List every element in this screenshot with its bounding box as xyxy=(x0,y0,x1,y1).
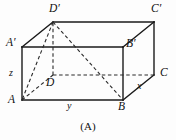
edge-label-x: x xyxy=(137,81,141,91)
vertex-label-D-prime: D′ xyxy=(49,3,60,15)
vertex-label-A: A xyxy=(8,94,15,106)
figure-caption: (A) xyxy=(0,120,176,132)
vertex-label-C: C xyxy=(160,67,168,79)
edge-label-y: y xyxy=(67,101,71,111)
vertex-label-A-prime: A′ xyxy=(6,37,16,49)
geometry-diagram-svg xyxy=(0,0,176,140)
solid-edges xyxy=(22,22,154,100)
vertex-label-B: B xyxy=(118,101,125,113)
edge-label-z: z xyxy=(9,68,13,78)
vertex-label-D: D xyxy=(46,77,54,89)
line-Dp-B xyxy=(53,22,123,100)
hidden-edges xyxy=(22,22,154,100)
geometry-figure: A B C D A′ B′ C′ D′ z y x (A) xyxy=(0,0,176,140)
vertex-label-C-prime: C′ xyxy=(151,3,161,15)
vertex-label-B-prime: B′ xyxy=(126,38,136,50)
